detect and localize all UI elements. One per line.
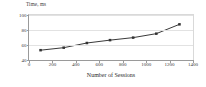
- x-axis-tick-label: 600: [96, 62, 104, 67]
- series-line-chart: [29, 15, 193, 60]
- y-axis-tick-label: 80: [22, 28, 27, 33]
- data-point-marker: [86, 42, 89, 44]
- data-point-marker: [155, 32, 158, 34]
- data-point-marker: [39, 49, 42, 51]
- x-axis-title: Number of Sessions: [28, 72, 194, 79]
- data-point-marker: [178, 23, 181, 25]
- data-point-marker: [132, 36, 135, 38]
- x-axis-tick-label: 1200: [165, 62, 175, 67]
- y-axis-tick-label: 60: [22, 43, 27, 48]
- x-axis-tick-label: 200: [49, 62, 57, 67]
- y-axis-tick-label: 100: [19, 13, 27, 18]
- y-axis-tick-label: 40: [22, 58, 27, 63]
- plot-area: 4060801000200400600800100012001400: [28, 14, 194, 61]
- x-axis-tick-label: 1000: [141, 62, 151, 67]
- x-axis-tick-label: 0: [28, 62, 31, 67]
- x-axis-tick-label: 1400: [188, 62, 198, 67]
- y-axis-tick-mark: [27, 45, 30, 46]
- x-axis-tick-label: 400: [72, 62, 80, 67]
- y-axis-title: Time, ms: [26, 1, 46, 7]
- series-line: [41, 24, 180, 50]
- data-point-marker: [62, 46, 65, 48]
- x-axis-tick-label: 800: [119, 62, 127, 67]
- chart-figure: Time, ms 4060801000200400600800100012001…: [0, 0, 206, 87]
- data-point-marker: [109, 39, 112, 41]
- y-axis-tick-mark: [27, 30, 30, 31]
- gridline-horizontal: [29, 45, 193, 46]
- gridline-horizontal: [29, 15, 193, 16]
- gridline-horizontal: [29, 30, 193, 31]
